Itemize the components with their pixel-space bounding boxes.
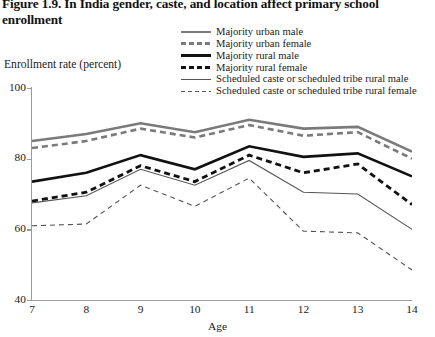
- legend-item: Majority urban female: [181, 38, 417, 50]
- y-axis-label: Enrollment rate (percent): [4, 58, 121, 71]
- legend-swatch-solid-gray: [181, 26, 211, 37]
- x-tick-label: 12: [283, 303, 323, 315]
- chart-legend: Majority urban male Majority urban femal…: [181, 26, 417, 97]
- legend-swatch-thin-solid: [181, 74, 211, 85]
- x-tick-label: 7: [12, 303, 52, 315]
- y-tick-mark: [27, 88, 31, 89]
- legend-swatch-dashed-gray: [181, 38, 211, 49]
- legend-item: Majority rural female: [181, 62, 417, 74]
- figure-container: Figure 1.9. In India gender, caste, and …: [0, 0, 435, 337]
- x-tick-label: 10: [175, 303, 215, 315]
- y-tick-label: 60: [0, 222, 26, 234]
- x-tick-label: 14: [392, 303, 432, 315]
- x-axis-label: Age: [0, 320, 435, 332]
- series-line: [32, 155, 412, 204]
- legend-label: Majority urban male: [216, 26, 303, 38]
- x-tick-label: 13: [338, 303, 378, 315]
- legend-label: Scheduled caste or scheduled tribe rural…: [216, 73, 408, 85]
- legend-item: Majority urban male: [181, 26, 417, 38]
- series-line: [32, 178, 412, 270]
- y-tick-mark: [27, 229, 31, 230]
- plot-area: [32, 88, 412, 300]
- legend-item: Scheduled caste or scheduled tribe rural…: [181, 73, 417, 85]
- x-tick-label: 9: [121, 303, 161, 315]
- series-line: [32, 120, 412, 152]
- legend-label: Majority urban female: [216, 38, 311, 50]
- legend-swatch-dashed-black: [181, 62, 211, 73]
- x-tick-label: 8: [66, 303, 106, 315]
- figure-title: Figure 1.9. In India gender, caste, and …: [2, 0, 402, 27]
- y-tick-mark: [27, 300, 31, 301]
- x-tick-label: 11: [229, 303, 269, 315]
- legend-item: Majority rural male: [181, 50, 417, 62]
- y-tick-label: 100: [0, 81, 26, 93]
- y-tick-label: 80: [0, 151, 26, 163]
- legend-label: Majority rural female: [216, 62, 307, 74]
- y-tick-mark: [27, 159, 31, 160]
- legend-label: Majority rural male: [216, 50, 299, 62]
- legend-swatch-solid-black: [181, 50, 211, 61]
- series-group: [32, 120, 412, 270]
